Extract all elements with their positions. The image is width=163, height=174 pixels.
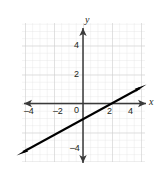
- coordinate-plane-figure: –4 –2 0 2 4 4 2 –4 x y: [0, 0, 163, 174]
- x-tick-label-2: 2: [107, 107, 112, 116]
- x-tick-label-zero: 0: [74, 106, 79, 115]
- x-tick-label-neg2: –2: [53, 107, 63, 116]
- x-axis-label: x: [149, 97, 153, 107]
- y-tick-label-neg4: –4: [70, 144, 80, 153]
- y-axis-label: y: [85, 15, 89, 25]
- x-tick-label-neg4: –4: [24, 107, 34, 116]
- y-tick-label-4: 4: [74, 41, 79, 50]
- x-tick-label-4: 4: [128, 107, 133, 116]
- y-tick-label-2: 2: [74, 70, 79, 79]
- graph-canvas: [0, 0, 163, 174]
